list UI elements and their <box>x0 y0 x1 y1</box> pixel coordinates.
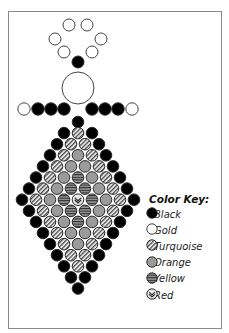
turquoise-bead-icon <box>100 216 112 228</box>
black-bead-icon <box>86 261 98 273</box>
red-bead-icon <box>147 289 157 299</box>
turquoise-bead-icon <box>37 183 49 195</box>
turquoise-bead-icon <box>37 205 49 217</box>
black-bead-icon <box>107 227 119 239</box>
large-gold-bead-icon <box>62 72 94 104</box>
turquoise-bead-icon <box>107 205 119 217</box>
orange-bead-icon <box>72 150 84 162</box>
black-bead-icon <box>86 127 98 139</box>
black-bead-icon <box>44 150 56 162</box>
bead-pattern <box>0 0 229 333</box>
black-bead-icon <box>79 272 91 284</box>
black-bead-icon <box>100 238 112 250</box>
turquoise-bead-icon <box>44 172 56 184</box>
yellow-bead-icon <box>65 183 77 195</box>
turquoise-swatch-icon <box>146 239 158 251</box>
turquoise-bead-icon <box>51 227 63 239</box>
black-bead-icon <box>58 103 70 115</box>
black-bead-icon <box>86 103 98 115</box>
black-bead-icon <box>32 103 44 115</box>
black-bead-icon <box>16 194 28 206</box>
turquoise-bead-icon <box>51 161 63 173</box>
orange-bead-icon <box>79 227 91 239</box>
gold-bead-icon <box>95 33 107 45</box>
turquoise-bead-icon <box>86 150 98 162</box>
yellow-swatch-icon <box>146 272 158 284</box>
gold-bead-icon <box>147 224 157 234</box>
yellow-bead-icon <box>65 205 77 217</box>
orange-bead-icon <box>86 172 98 184</box>
black-bead-icon <box>147 208 157 218</box>
red-bead-icon <box>72 194 84 206</box>
yellow-bead-icon <box>86 194 98 206</box>
turquoise-bead-icon <box>44 216 56 228</box>
black-bead-icon <box>128 194 140 206</box>
black-bead-icon <box>99 103 111 115</box>
turquoise-bead-icon <box>93 161 105 173</box>
black-bead-icon <box>51 249 63 261</box>
orange-bead-icon <box>65 161 77 173</box>
black-bead-icon <box>121 183 133 195</box>
yellow-bead-icon <box>72 216 84 228</box>
yellow-bead-icon <box>58 194 70 206</box>
orange-bead-icon <box>147 256 157 266</box>
black-bead-icon <box>65 272 77 284</box>
color-key-title: Color Key: <box>149 193 209 205</box>
black-bead-icon <box>107 161 119 173</box>
color-key-item-black: Black <box>146 207 181 221</box>
turquoise-bead-icon <box>58 150 70 162</box>
orange-bead-icon <box>65 227 77 239</box>
color-key-label: Turquoise <box>154 241 203 252</box>
turquoise-bead-icon <box>72 261 84 273</box>
black-bead-icon <box>23 205 35 217</box>
turquoise-bead-icon <box>58 238 70 250</box>
turquoise-bead-icon <box>107 183 119 195</box>
red-swatch-icon <box>146 288 158 300</box>
gold-bead-icon <box>81 19 93 31</box>
color-key-item-gold: Gold <box>146 223 177 237</box>
orange-bead-icon <box>51 183 63 195</box>
black-bead-icon <box>37 161 49 173</box>
black-bead-icon <box>45 103 57 115</box>
orange-bead-icon <box>79 161 91 173</box>
gold-bead-icon <box>86 46 98 58</box>
color-key-item-turquoise: Turquoise <box>146 239 203 253</box>
orange-bead-icon <box>100 194 112 206</box>
gold-swatch-icon <box>146 223 158 235</box>
yellow-bead-icon <box>79 205 91 217</box>
turquoise-bead-icon <box>93 227 105 239</box>
black-bead-icon <box>51 138 63 150</box>
turquoise-bead-icon <box>79 138 91 150</box>
black-bead-icon <box>58 127 70 139</box>
black-bead-icon <box>30 216 42 228</box>
color-key-label: Yellow <box>154 273 185 284</box>
black-bead-icon <box>58 261 70 273</box>
turquoise-bead-icon <box>65 138 77 150</box>
orange-bead-icon <box>93 205 105 217</box>
black-swatch-icon <box>146 207 158 219</box>
turquoise-bead-icon <box>79 249 91 261</box>
orange-bead-icon <box>51 205 63 217</box>
black-bead-icon <box>121 205 133 217</box>
orange-bead-icon <box>58 172 70 184</box>
color-key-item-yellow: Yellow <box>146 272 185 286</box>
black-bead-icon <box>93 138 105 150</box>
yellow-bead-icon <box>79 183 91 195</box>
gold-bead-icon <box>58 46 70 58</box>
turquoise-bead-icon <box>86 238 98 250</box>
black-bead-icon <box>72 56 84 68</box>
orange-bead-icon <box>58 216 70 228</box>
black-bead-icon <box>114 216 126 228</box>
turquoise-bead-icon <box>114 194 126 206</box>
black-bead-icon <box>114 172 126 184</box>
yellow-bead-icon <box>147 273 157 283</box>
orange-bead-icon <box>72 238 84 250</box>
yellow-bead-icon <box>72 172 84 184</box>
turquoise-bead-icon <box>30 194 42 206</box>
gold-bead-icon <box>18 103 30 115</box>
gold-bead-icon <box>49 33 61 45</box>
black-bead-icon <box>72 116 84 128</box>
turquoise-bead-icon <box>65 249 77 261</box>
gold-bead-icon <box>63 19 75 31</box>
turquoise-bead-icon <box>72 127 84 139</box>
